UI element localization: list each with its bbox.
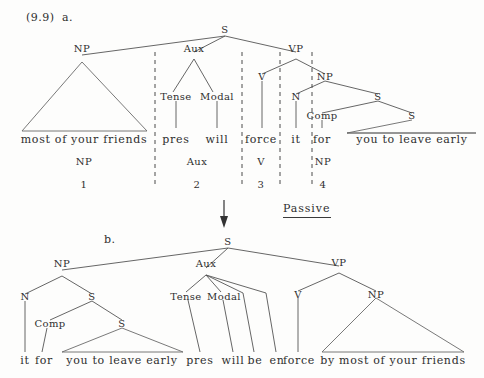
tree-b-inner-s-triangle: [62, 328, 183, 352]
tree-a-node-s-embedded: S: [374, 92, 381, 102]
operation-label-underline: [283, 217, 331, 218]
tree-b-node-np-object: NP: [368, 290, 384, 300]
figure-page: (9.9) a. S NP Aux VP Tense Modal V NP N …: [0, 0, 484, 378]
tree-b-node-v: V: [294, 290, 302, 300]
tree-a-analysis-number-2: 2: [194, 180, 201, 190]
tree-b-aux-branches: [186, 275, 276, 352]
subfigure-label-b: b.: [104, 234, 115, 245]
tree-a-node-v: V: [258, 72, 266, 82]
tree-a-analysis-number-4: 4: [320, 180, 327, 190]
tree-b-terminal-pres: pres: [186, 355, 213, 366]
tree-a-node-s-root: S: [221, 25, 228, 35]
tree-a-terminal-will: will: [206, 134, 229, 145]
tree-a-node-comp: Comp: [306, 111, 337, 121]
tree-b-node-n: N: [20, 292, 29, 302]
tree-b-terminal-for: for: [35, 355, 53, 366]
tree-a-terminal-np-subject: most of your friends: [21, 134, 148, 145]
tree-b-node-s-root: S: [224, 237, 231, 247]
tree-a-analysis-number-1: 1: [81, 180, 88, 190]
tree-b-node-s-embedded: S: [88, 292, 95, 302]
operation-label-passive: Passive: [283, 203, 330, 214]
tree-b-terminal-s-inner: you to leave early: [66, 355, 177, 366]
tree-a-terminal-it: it: [291, 134, 300, 145]
tree-a-analysis-label-2: Aux: [187, 157, 208, 167]
tree-b-np-object-triangle: [322, 298, 464, 352]
tree-a-node-aux: Aux: [184, 44, 205, 54]
tree-b-node-np-subject: NP: [54, 259, 70, 269]
tree-b-node-s-inner: S: [118, 319, 125, 329]
tree-b-node-tense: Tense: [170, 292, 201, 302]
tree-b-terminal-np-object: by most of your friends: [320, 355, 465, 366]
tree-b-node-modal: Modal: [207, 292, 241, 302]
transformation-arrow: [220, 200, 228, 228]
tree-a-node-np-subject: NP: [74, 44, 90, 54]
tree-a-analysis-number-3: 3: [258, 180, 265, 190]
tree-b-node-comp: Comp: [34, 319, 65, 329]
tree-a-node-s-inner: S: [408, 111, 415, 121]
tree-a-terminal-pres: pres: [162, 134, 189, 145]
tree-a-terminal-s-inner: you to leave early: [356, 134, 467, 145]
tree-b-terminal-it: it: [20, 355, 29, 366]
tree-b-terminal-be: be: [248, 355, 263, 366]
tree-a-node-modal: Modal: [200, 92, 234, 102]
example-number: (9.9): [26, 12, 55, 23]
tree-a-bracket-separators: [155, 52, 312, 188]
tree-a-node-vp: VP: [289, 44, 304, 54]
tree-b-node-vp: VP: [332, 258, 347, 268]
tree-a-np-subject-triangle: [22, 62, 147, 131]
tree-a-terminal-for: for: [313, 134, 331, 145]
tree-a-analysis-label-1: NP: [76, 157, 92, 167]
tree-a-inner-s-triangle: [347, 120, 476, 133]
tree-a-node-n: N: [291, 92, 300, 102]
subfigure-label-a: a.: [62, 12, 73, 23]
tree-b-terminal-will: will: [222, 355, 245, 366]
tree-b-terminal-force: force: [283, 355, 315, 366]
tree-a-analysis-label-3: V: [257, 157, 265, 167]
tree-b-np-subject-branches: [25, 276, 92, 352]
tree-b-node-aux: Aux: [196, 259, 217, 269]
tree-a-node-np-object: NP: [317, 72, 333, 82]
tree-a-node-tense: Tense: [160, 92, 191, 102]
tree-b-vp-branches: [298, 273, 376, 352]
tree-a-terminal-force: force: [245, 134, 277, 145]
tree-a-analysis-label-4: NP: [315, 157, 331, 167]
tree-line-layer: [0, 0, 484, 378]
